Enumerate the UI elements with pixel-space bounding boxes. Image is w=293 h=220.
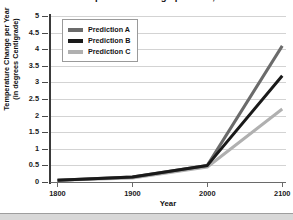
y-tick-mark — [42, 33, 48, 34]
y-tick-group: 1.5 — [20, 132, 48, 133]
legend-label: Prediction B — [88, 36, 130, 45]
y-tick-label: 1 — [35, 144, 39, 153]
y-tick-mark — [42, 66, 48, 67]
series-line — [57, 76, 282, 181]
y-tick-mark — [42, 149, 48, 150]
chart-title: Predicted Temperature Change per Year, 1… — [0, 0, 293, 2]
x-tick-label: 2000 — [199, 189, 215, 198]
temperature-change-line-chart: Predicted Temperature Change per Year, 1… — [0, 0, 293, 220]
y-tick-group: 0 — [20, 182, 48, 183]
legend-item: Prediction C — [68, 46, 130, 57]
y-tick-mark — [42, 82, 48, 83]
chart-legend: Prediction APrediction BPrediction C — [62, 19, 138, 62]
y-tick-group: 2.5 — [20, 99, 48, 100]
x-axis-line — [50, 182, 286, 183]
legend-swatch — [68, 50, 83, 54]
x-tick-mark — [57, 182, 58, 187]
footer-bar — [0, 213, 293, 220]
y-tick-mark — [42, 116, 48, 117]
y-tick-mark — [42, 182, 48, 183]
y-axis-title-line-1: Temperature Change per Year — [2, 0, 11, 134]
y-tick-label: 1.5 — [29, 127, 39, 136]
y-tick-group: 3.5 — [20, 66, 48, 67]
y-tick-label: 2.5 — [29, 94, 39, 103]
y-tick-label: 4.5 — [29, 28, 39, 37]
series-line — [57, 46, 282, 180]
x-tick-mark — [207, 182, 208, 187]
y-tick-mark — [42, 132, 48, 133]
y-tick-group: 4.5 — [20, 33, 48, 34]
legend-label: Prediction A — [88, 25, 130, 34]
y-tick-label: 3 — [35, 77, 39, 86]
x-tick-label: 2100 — [274, 189, 290, 198]
legend-item: Prediction A — [68, 24, 130, 35]
legend-item: Prediction B — [68, 35, 130, 46]
y-tick-mark — [42, 99, 48, 100]
series-line — [57, 109, 282, 180]
y-tick-mark — [42, 165, 48, 166]
y-axis-title: Temperature Change per Year (in degrees … — [2, 0, 24, 134]
y-tick-mark — [42, 49, 48, 50]
x-axis-title: Year — [50, 199, 286, 208]
x-tick-mark — [132, 182, 133, 187]
x-tick-label: 1900 — [124, 189, 140, 198]
y-tick-label: 3.5 — [29, 61, 39, 70]
y-tick-label: 5 — [35, 11, 39, 20]
legend-label: Prediction C — [88, 47, 130, 56]
x-tick-label: 1800 — [49, 189, 65, 198]
y-tick-mark — [42, 16, 48, 17]
y-tick-label: 0 — [35, 177, 39, 186]
y-tick-group: 3 — [20, 82, 48, 83]
y-tick-label: 4 — [35, 44, 39, 53]
legend-swatch — [68, 39, 83, 43]
y-tick-group: 1 — [20, 149, 48, 150]
legend-swatch — [68, 28, 83, 32]
y-tick-group: 0.5 — [20, 165, 48, 166]
y-tick-group: 2 — [20, 116, 48, 117]
y-tick-label: 0.5 — [29, 160, 39, 169]
y-tick-group: 5 — [20, 16, 48, 17]
x-tick-mark — [282, 182, 283, 187]
y-tick-group: 4 — [20, 49, 48, 50]
y-axis-title-line-2: (in degrees Centigrade) — [11, 0, 20, 134]
y-tick-label: 2 — [35, 111, 39, 120]
